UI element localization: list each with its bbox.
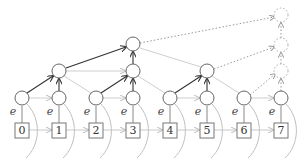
node-l0-7 (274, 91, 288, 105)
leaf-label-6: 6 (241, 124, 248, 137)
leaf-label-7: 7 (278, 124, 285, 137)
dotted-edges (140, 17, 281, 95)
node-l0-6 (237, 91, 251, 105)
node-l0-3 (126, 91, 140, 105)
node-l2-0 (126, 37, 140, 51)
node-l1-0 (52, 64, 66, 78)
eps-label-2: e (84, 105, 91, 118)
node-l1-1 (126, 64, 140, 78)
nodes (15, 37, 288, 105)
eps-label-5: e (195, 105, 202, 118)
node-l1-2 (200, 64, 214, 78)
eps-label-7: e (269, 105, 276, 118)
eps-label-6: e (232, 105, 239, 118)
epsilon-labels: e e e e e e e e (10, 105, 276, 118)
leaf-label-1: 1 (56, 124, 63, 137)
node-l0-5 (200, 91, 214, 105)
eps-label-3: e (121, 105, 128, 118)
ghost-node-l1 (274, 64, 288, 78)
ghost-nodes (274, 8, 288, 78)
leaf-links (22, 106, 281, 123)
node-l0-2 (89, 91, 103, 105)
leaf-label-5: 5 (204, 124, 211, 137)
leaf-label-3: 3 (130, 124, 137, 137)
leaf-label-0: 0 (19, 124, 26, 137)
leaf-label-4: 4 (167, 124, 174, 137)
node-l0-4 (163, 91, 177, 105)
eps-label-4: e (158, 105, 165, 118)
eps-label-1: e (47, 105, 54, 118)
ghost-node-l3 (274, 8, 288, 22)
leaf-label-2: 2 (93, 124, 100, 137)
tree-diagram: 0 1 2 3 4 5 6 7 e e e e e e e e (0, 0, 306, 166)
eps-label-0: e (10, 105, 17, 118)
ghost-node-l2 (274, 38, 288, 52)
node-l0-0 (15, 91, 29, 105)
node-l0-1 (52, 91, 66, 105)
